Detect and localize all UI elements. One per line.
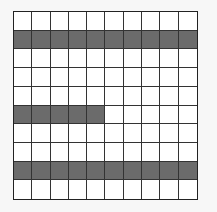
grid-cell xyxy=(14,143,32,162)
shaded-cell xyxy=(14,31,32,50)
shaded-cell xyxy=(142,31,160,50)
grid-cell xyxy=(124,106,142,125)
grid-cell xyxy=(124,87,142,106)
grid-cell xyxy=(51,180,69,199)
grid-cell xyxy=(179,12,197,31)
grid-cell xyxy=(179,106,197,125)
grid-cell xyxy=(142,12,160,31)
grid-cell xyxy=(51,12,69,31)
grid-cell xyxy=(87,143,105,162)
grid-cell xyxy=(124,180,142,199)
grid-cell xyxy=(160,49,178,68)
grid-cell xyxy=(69,49,87,68)
shaded-cell xyxy=(51,31,69,50)
grid-cell xyxy=(32,49,50,68)
grid-cell xyxy=(69,12,87,31)
grid-cell xyxy=(142,87,160,106)
grid-cell xyxy=(51,87,69,106)
shaded-cell xyxy=(179,162,197,181)
grid-cell xyxy=(160,143,178,162)
shaded-cell xyxy=(179,31,197,50)
grid-cell xyxy=(105,180,123,199)
grid-cell xyxy=(124,143,142,162)
grid-cell xyxy=(142,68,160,87)
grid-cell xyxy=(51,124,69,143)
grid-cell xyxy=(179,124,197,143)
shaded-cell xyxy=(14,106,32,125)
shaded-cell xyxy=(87,31,105,50)
grid-cell xyxy=(14,87,32,106)
shaded-cell xyxy=(105,162,123,181)
shaded-cell xyxy=(51,106,69,125)
grid-cell xyxy=(142,124,160,143)
shaded-cell xyxy=(32,162,50,181)
grid-cell xyxy=(105,106,123,125)
shaded-cell xyxy=(69,31,87,50)
grid-cell xyxy=(87,12,105,31)
grid-cell xyxy=(87,180,105,199)
grid-cell xyxy=(51,49,69,68)
shaded-cell xyxy=(87,106,105,125)
grid-cell xyxy=(179,49,197,68)
grid-cell xyxy=(179,68,197,87)
shaded-cell xyxy=(124,31,142,50)
grid-cell xyxy=(32,124,50,143)
shaded-cell xyxy=(51,162,69,181)
grid-cell xyxy=(142,180,160,199)
shaded-cell xyxy=(87,162,105,181)
grid-cell xyxy=(69,143,87,162)
grid-cell xyxy=(160,124,178,143)
grid-cell xyxy=(142,143,160,162)
shaded-cell xyxy=(69,106,87,125)
grid-cell xyxy=(14,180,32,199)
grid-cell xyxy=(124,12,142,31)
grid-cell xyxy=(124,68,142,87)
grid-cell xyxy=(179,143,197,162)
grid-cell xyxy=(51,143,69,162)
grid-cell xyxy=(105,87,123,106)
grid-cell xyxy=(124,124,142,143)
grid-cell xyxy=(32,87,50,106)
shaded-cell xyxy=(142,162,160,181)
grid-cell xyxy=(87,124,105,143)
grid-cell xyxy=(32,143,50,162)
grid-cell xyxy=(14,49,32,68)
hundred-grid xyxy=(13,11,198,200)
grid-cell xyxy=(69,124,87,143)
grid-cell xyxy=(51,68,69,87)
grid-cell xyxy=(69,68,87,87)
grid-cell xyxy=(32,68,50,87)
grid-cell xyxy=(160,12,178,31)
grid-cell xyxy=(87,68,105,87)
grid-cell xyxy=(105,124,123,143)
grid-cell xyxy=(160,106,178,125)
grid-cell xyxy=(160,68,178,87)
shaded-cell xyxy=(32,106,50,125)
grid-cell xyxy=(179,87,197,106)
grid-cell xyxy=(69,87,87,106)
shaded-cell xyxy=(105,31,123,50)
grid-cell xyxy=(87,49,105,68)
shaded-cell xyxy=(69,162,87,181)
grid-cell xyxy=(32,12,50,31)
grid-cell xyxy=(142,49,160,68)
grid-cell xyxy=(14,68,32,87)
grid-cell xyxy=(105,68,123,87)
grid-cell xyxy=(105,49,123,68)
shaded-cell xyxy=(14,162,32,181)
shaded-cell xyxy=(160,162,178,181)
grid-cell xyxy=(142,106,160,125)
shaded-cell xyxy=(124,162,142,181)
grid-cell xyxy=(14,12,32,31)
shaded-cell xyxy=(32,31,50,50)
grid-cell xyxy=(87,87,105,106)
grid-cell xyxy=(179,180,197,199)
shaded-cell xyxy=(160,31,178,50)
grid-cell xyxy=(160,180,178,199)
grid-cell xyxy=(124,49,142,68)
grid-cell xyxy=(69,180,87,199)
grid-cell xyxy=(32,180,50,199)
grid-cell xyxy=(14,124,32,143)
grid-cell xyxy=(105,143,123,162)
grid-cell xyxy=(160,87,178,106)
